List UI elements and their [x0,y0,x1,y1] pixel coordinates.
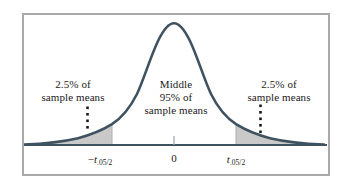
left-tail-shaded-region [24,125,112,145]
tick-label-negative-critical-value: −t.05/2 [72,153,128,169]
right-tail-shaded-region [236,125,324,145]
tick-label-positive-critical-value: t.05/2 [208,153,264,169]
right-tail-annotation-line2: sample means [232,91,326,104]
t-subscript-left: .05/2 [97,158,112,167]
center-annotation-line1: Middle [128,78,224,91]
right-tail-annotation-line1: 2.5% of [232,78,326,91]
zero-value: 0 [171,152,177,164]
left-leader-dotted-line [86,107,89,129]
tick-label-zero: 0 [156,152,192,164]
left-tail-annotation: 2.5% of sample means [26,78,120,104]
right-leader-dotted-line [259,105,262,134]
center-annotation-line3: sample means [128,104,224,117]
t-subscript-right: .05/2 [230,158,245,167]
center-annotation-line2: 95% of [128,91,224,104]
left-tail-annotation-line2: sample means [26,91,120,104]
left-tail-annotation-line1: 2.5% of [26,78,120,91]
center-region-annotation: Middle 95% of sample means [128,78,224,117]
right-tail-annotation: 2.5% of sample means [232,78,326,104]
figure-root: 2.5% of sample means Middle 95% of sampl… [0,0,351,189]
